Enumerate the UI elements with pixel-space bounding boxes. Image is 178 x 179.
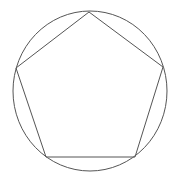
inscribed-pentagon (16, 12, 163, 157)
circumscribed-circle (13, 11, 167, 171)
diagram-canvas (0, 0, 178, 179)
